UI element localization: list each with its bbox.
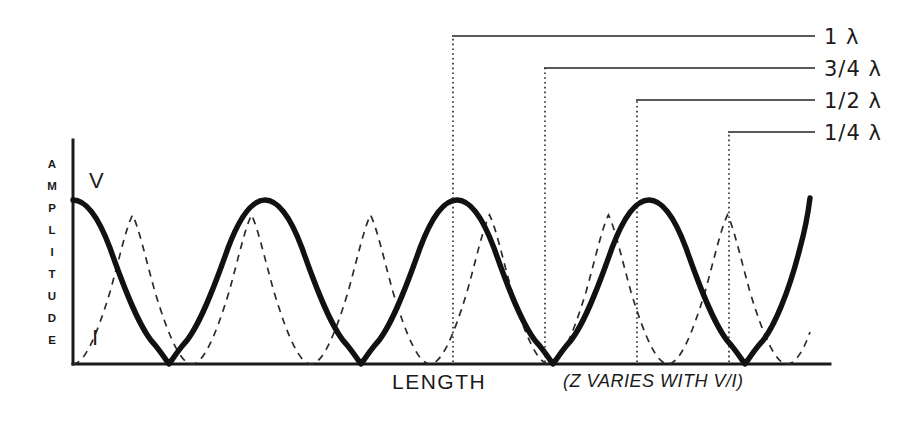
standing-wave-figure: 1 λ 3/4 λ 1/2 λ 1/4 λ A M P L I T U D E … [0,0,900,427]
y-axis-letter-2: P [44,202,60,214]
voltage-curve-group [73,198,810,364]
callout-leader-1-2-lambda [636,100,815,362]
y-axis-letter-8: E [44,334,60,346]
voltage-curve-label: V [89,168,104,194]
callout-label-1-4-lambda: 1/4 λ [824,121,882,145]
y-axis-letter-7: D [44,312,60,324]
callout-leaders-group [452,36,815,362]
y-axis-letter-4: I [44,246,60,258]
y-axis-letter-0: A [44,158,60,170]
y-axis-letter-3: L [44,224,60,236]
callout-leader-1-lambda [452,36,815,362]
current-curve-label: I [92,325,98,351]
figure-canvas [0,0,900,427]
y-axis-letter-5: T [44,268,60,280]
callout-label-1-lambda: 1 λ [824,25,859,49]
x-axis-title: LENGTH [392,370,486,394]
voltage-curve [73,198,810,364]
x-axis-note: (Z VARIES WITH V/I) [563,371,744,392]
callout-label-1-2-lambda: 1/2 λ [824,89,882,113]
y-axis-letter-6: U [44,290,60,302]
y-axis-letter-1: M [44,180,60,192]
callout-label-3-4-lambda: 3/4 λ [824,57,882,81]
